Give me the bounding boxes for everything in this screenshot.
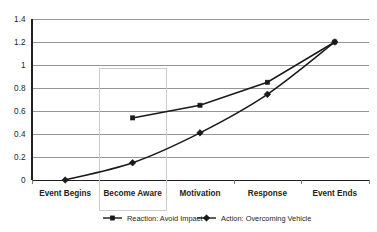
- data-point-diamond: [129, 159, 136, 166]
- y-tick-label: 1.4: [14, 15, 26, 24]
- y-tick-label: 0.6: [14, 107, 26, 116]
- x-category-label: Response: [248, 189, 288, 198]
- x-category-label: Event Ends: [313, 189, 358, 198]
- y-tick-label: 1.2: [14, 38, 26, 47]
- y-axis-tick-labels: 00.20.40.60.811.21.4: [14, 15, 26, 185]
- chart-container: 00.20.40.60.811.21.4Event BeginsBecome A…: [0, 0, 377, 232]
- series-1: [131, 40, 337, 120]
- y-tick-label: 0.2: [14, 153, 26, 162]
- line-chart: 00.20.40.60.811.21.4Event BeginsBecome A…: [0, 0, 377, 232]
- gridlines: [32, 20, 369, 181]
- series-line: [133, 42, 335, 118]
- data-point-diamond: [197, 130, 204, 137]
- x-category-label: Event Begins: [39, 189, 91, 198]
- data-point-square: [198, 103, 202, 107]
- series-2: [62, 39, 338, 184]
- data-point-square: [110, 216, 114, 220]
- x-category-label: Motivation: [180, 189, 221, 198]
- data-point-diamond: [62, 177, 69, 184]
- x-axis-category-labels: Event BeginsBecome AwareMotivationRespon…: [39, 189, 357, 198]
- series-line: [65, 42, 335, 180]
- data-point-square: [265, 80, 269, 84]
- legend-label: Action: Overcoming Vehicle: [221, 214, 311, 223]
- y-tick-label: 0.4: [14, 130, 26, 139]
- y-tick-label: 0.8: [14, 84, 26, 93]
- data-point-diamond: [203, 215, 210, 222]
- y-tick-label: 0: [21, 176, 26, 185]
- x-category-label: Become Aware: [103, 189, 162, 198]
- data-point-square: [131, 116, 135, 120]
- y-tick-label: 1: [21, 61, 26, 70]
- legend-label: Reaction: Avoid Impact: [127, 214, 202, 223]
- legend: Reaction: Avoid ImpactAction: Overcoming…: [103, 214, 311, 223]
